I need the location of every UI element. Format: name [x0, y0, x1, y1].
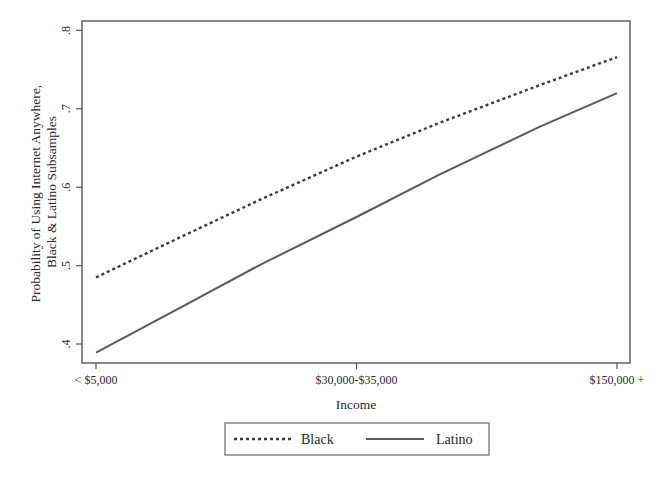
x-axis-title: Income [336, 397, 376, 412]
y-axis-title: Probability of Using Internet Anywhere, … [28, 81, 59, 302]
series-black-line [96, 57, 617, 277]
y-tick-label: .7 [59, 104, 73, 113]
y-tick-label: .8 [59, 26, 73, 35]
legend: Black Latino [225, 423, 489, 455]
y-axis-ticks: .4.5.6.7.8 [59, 26, 82, 349]
legend-latino-label: Latino [436, 432, 473, 447]
x-tick-label: $150,000 + [590, 373, 645, 387]
line-chart: .4.5.6.7.8 < $5,000$30,000-$35,000$150,0… [0, 0, 658, 478]
plot-frame [82, 21, 630, 363]
legend-black-label: Black [301, 432, 334, 447]
y-tick-label: .5 [59, 261, 73, 270]
y-tick-label: .6 [59, 183, 73, 192]
x-tick-label: < $5,000 [75, 373, 118, 387]
x-axis-ticks: < $5,000$30,000-$35,000$150,000 + [75, 363, 645, 387]
y-tick-label: .4 [59, 340, 73, 349]
x-tick-label: $30,000-$35,000 [316, 373, 398, 387]
series-latino-line [96, 93, 617, 353]
